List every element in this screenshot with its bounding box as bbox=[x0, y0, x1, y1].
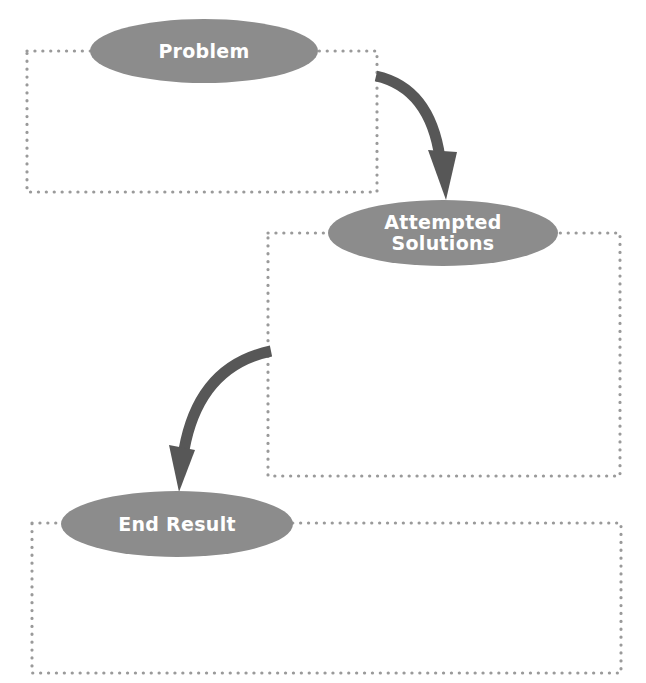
problem-label: Problem bbox=[90, 19, 318, 83]
attempted-solutions-label-line2: Solutions bbox=[392, 233, 495, 254]
problem-content-area[interactable] bbox=[34, 86, 370, 186]
arrow-problem-to-solutions bbox=[376, 76, 457, 200]
arrow-solutions-to-end-result bbox=[169, 351, 271, 492]
attempted-solutions-label-line1: Attempted bbox=[384, 212, 501, 233]
attempted-solutions-content-area[interactable] bbox=[276, 270, 614, 470]
end-result-label-text: End Result bbox=[118, 514, 236, 535]
attempted-solutions-label: Attempted Solutions bbox=[328, 200, 558, 266]
end-result-content-area[interactable] bbox=[39, 560, 615, 666]
problem-label-text: Problem bbox=[158, 41, 249, 62]
end-result-label: End Result bbox=[61, 491, 293, 557]
